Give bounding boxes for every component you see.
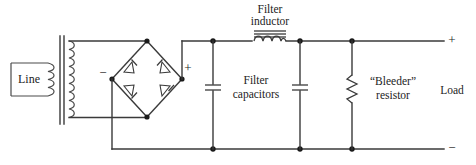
diode-bridge: − + [99, 38, 191, 119]
filter-capacitors-label-line2: capacitors [233, 88, 280, 101]
transformer-secondary-winding [69, 41, 74, 118]
transformer [60, 36, 147, 124]
rectifier-schematic-diagram: − + Filter inductor [0, 0, 476, 165]
load-label: Load [440, 84, 464, 96]
filter-capacitor-1 [205, 41, 221, 149]
diode-top-left [124, 60, 137, 74]
bleeder-resistor-label-line1: “Bleeder” [370, 75, 416, 87]
bridge-positive-sign: + [184, 60, 191, 75]
bridge-arm-top-left [112, 41, 147, 79]
bridge-arm-bottom-right [147, 79, 182, 117]
output-negative-sign: − [448, 140, 455, 155]
dc-positive-path [182, 41, 252, 79]
bridge-arm-top-right [147, 41, 182, 79]
line-source-label: Line [18, 72, 40, 86]
diode-top-right [157, 60, 170, 74]
output-positive-sign: + [448, 32, 455, 47]
bridge-arm-bottom-left [112, 79, 147, 117]
bridge-negative-sign: − [99, 65, 106, 80]
filter-inductor-label-line2: inductor [251, 15, 289, 27]
bridge-node-top [144, 38, 149, 43]
line-coil-icon [48, 63, 54, 96]
diode-bottom-left [124, 85, 137, 99]
filter-capacitors-label-line1: Filter [244, 74, 269, 86]
bridge-node-bottom [144, 114, 149, 119]
bleeder-resistor-label-line2: resistor [376, 89, 410, 101]
filter-inductor-label-line1: Filter [258, 3, 283, 15]
schematic-canvas: − + Filter inductor [0, 0, 476, 165]
filter-capacitor-2 [292, 41, 308, 149]
filter-capacitors-label: Filter capacitors [233, 74, 280, 101]
bleeder-resistor: “Bleeder” resistor [347, 41, 416, 149]
load-terminals: + − Load [440, 32, 464, 155]
filter-inductor: Filter inductor [251, 3, 289, 41]
resistor-zigzag-icon [347, 75, 357, 103]
